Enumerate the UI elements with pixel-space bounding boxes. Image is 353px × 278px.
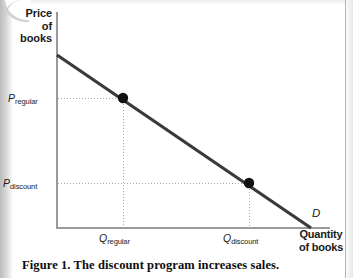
- regular-price-point-marker: [118, 93, 128, 103]
- y-tick-label-p-regular: Pregular: [8, 92, 38, 106]
- x-tick-label-q-regular: Qregular: [99, 232, 130, 246]
- chart-plot-area: Price of books Quantity of books D Pregu…: [0, 0, 353, 250]
- figure-caption: Figure 1. The discount program increases…: [22, 258, 279, 273]
- x-tick-q-regular-base: Q: [99, 232, 107, 244]
- x-tick-label-q-discount: Qdiscount: [223, 232, 258, 246]
- y-tick-label-p-discount: Pdiscount: [3, 177, 37, 191]
- y-tick-p-discount-base: P: [3, 177, 10, 189]
- y-tick-p-regular-base: P: [8, 92, 15, 104]
- x-tick-q-discount-base: Q: [223, 232, 231, 244]
- demand-curve-label: D: [312, 207, 320, 219]
- x-tick-q-discount-subscript: discount: [231, 237, 258, 246]
- figure-page: Price of books Quantity of books D Pregu…: [0, 0, 353, 278]
- discount-price-point-marker: [244, 178, 254, 188]
- demand-curve-graphic: [0, 0, 353, 250]
- demand-curve-line: [57, 55, 311, 228]
- y-tick-p-regular-subscript: regular: [15, 97, 38, 106]
- x-tick-q-regular-subscript: regular: [107, 237, 130, 246]
- y-tick-p-discount-subscript: discount: [10, 182, 37, 191]
